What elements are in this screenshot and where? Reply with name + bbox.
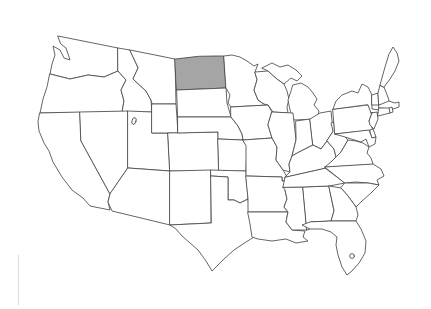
state-oregon [40,71,126,113]
state-wyoming [152,104,178,133]
state-colorado [168,132,219,171]
map-canvas [0,0,431,309]
state-north-dakota-highlighted [175,56,226,90]
us-map [0,0,431,309]
state-arkansas [246,176,288,212]
state-new-mexico [170,170,211,225]
state-south-dakota [177,88,231,117]
state-kansas [218,139,247,171]
state-pennsylvania [333,105,373,134]
lake-okeechobee [350,254,355,259]
scan-artifact-line [18,255,19,305]
